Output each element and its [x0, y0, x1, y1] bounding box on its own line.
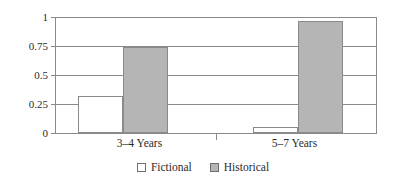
y-axis: 1 0.75 0.5 0.25 0 [0, 0, 50, 186]
legend-item-fictional: Fictional [137, 161, 192, 173]
y-tick-label-0: 0 [0, 128, 48, 139]
bar-historical-5-7-years [298, 21, 343, 133]
legend-label-historical: Historical [224, 161, 269, 173]
category-label-3-4-years: 3–4 Years [77, 137, 202, 150]
category-separator-tick [216, 134, 217, 140]
gray-square-swatch-icon [210, 163, 219, 172]
white-square-swatch-icon [137, 163, 146, 172]
y-tick-label-025: 0.25 [0, 99, 48, 110]
y-tick-label-1: 1 [0, 12, 48, 23]
bar-historical-3-4-years [123, 47, 168, 133]
bar-fictional-5-7-years [253, 127, 298, 133]
plot-area [55, 17, 377, 134]
chart-legend: Fictional Historical [0, 161, 406, 173]
category-label-5-7-years: 5–7 Years [232, 137, 357, 150]
legend-label-fictional: Fictional [151, 161, 192, 173]
legend-item-historical: Historical [210, 161, 269, 173]
y-tick-label-05: 0.5 [0, 70, 48, 81]
bar-fictional-3-4-years [78, 96, 123, 133]
bar-chart: 1 0.75 0.5 0.25 0 3–4 Years 5–7 Years Fi… [0, 0, 406, 186]
y-tick-label-075: 0.75 [0, 41, 48, 52]
